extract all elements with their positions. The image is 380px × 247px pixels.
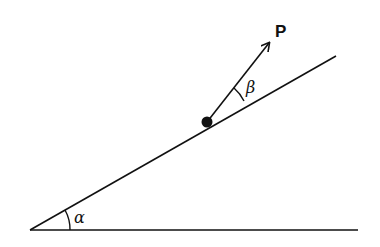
force-arrow: [207, 43, 269, 122]
inclined-plane-diagram: α β P: [0, 0, 380, 247]
beta-arc: [234, 88, 244, 101]
point-mass: [202, 117, 213, 128]
alpha-arc: [65, 210, 70, 230]
force-label-p: P: [275, 22, 286, 41]
incline-line: [30, 56, 336, 230]
beta-label: β: [245, 78, 255, 97]
alpha-label: α: [74, 208, 85, 227]
